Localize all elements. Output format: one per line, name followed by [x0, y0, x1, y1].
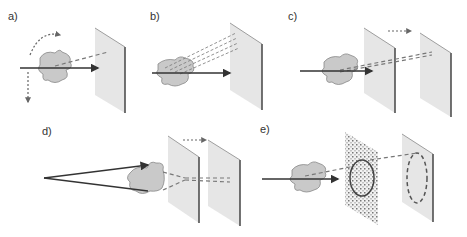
sample-object [322, 54, 358, 85]
diagram: a) b) c) [0, 0, 467, 237]
panel-label-b: b) [150, 10, 160, 22]
panel-b: b) [150, 10, 262, 110]
sample-object [39, 50, 72, 82]
detector-screen [95, 28, 125, 113]
panel-a: a) [8, 10, 125, 113]
panel-label-c: c) [288, 10, 297, 22]
detector-screen [230, 23, 262, 110]
detector-screen-far [208, 140, 240, 226]
detector-screen-far [420, 33, 451, 117]
panel-c: c) [288, 10, 451, 117]
detector-screen-near [168, 136, 199, 223]
rotate-arrow-icon [30, 34, 60, 55]
panel-label-e: e) [260, 123, 270, 135]
panel-label-d: d) [42, 125, 52, 137]
panel-e: e) [260, 123, 433, 225]
panel-d: d) [42, 125, 240, 226]
sample-object [290, 162, 326, 192]
panel-label-a: a) [8, 10, 18, 22]
